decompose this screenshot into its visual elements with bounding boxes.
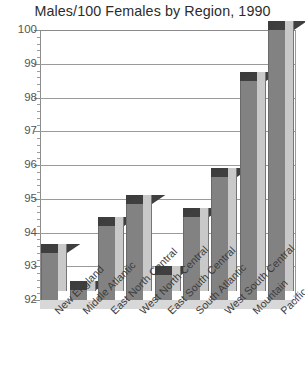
gridline: [40, 30, 295, 31]
gridline: [40, 64, 295, 65]
bar-side-face: [58, 244, 67, 291]
chart-title: Males/100 Females by Region, 1990: [0, 3, 305, 19]
y-tick-label: 100: [7, 24, 37, 36]
y-tick-label: 96: [7, 159, 37, 171]
bar-side-face: [257, 72, 266, 291]
y-tick-label: 99: [7, 58, 37, 70]
y-tick-label: 95: [7, 193, 37, 205]
y-tick-label: 97: [7, 125, 37, 137]
y-tick-label: 98: [7, 92, 37, 104]
chart-container: Males/100 Females by Region, 1990 100999…: [0, 0, 305, 386]
bar-front-face: [41, 253, 58, 300]
y-tick-label: 93: [7, 260, 37, 272]
x-axis-labels: New EnglandMiddle AtlanticEast North Cen…: [0, 300, 305, 386]
bar: [41, 244, 67, 300]
y-tick-label: 94: [7, 227, 37, 239]
plot-right-edge: [295, 30, 296, 300]
